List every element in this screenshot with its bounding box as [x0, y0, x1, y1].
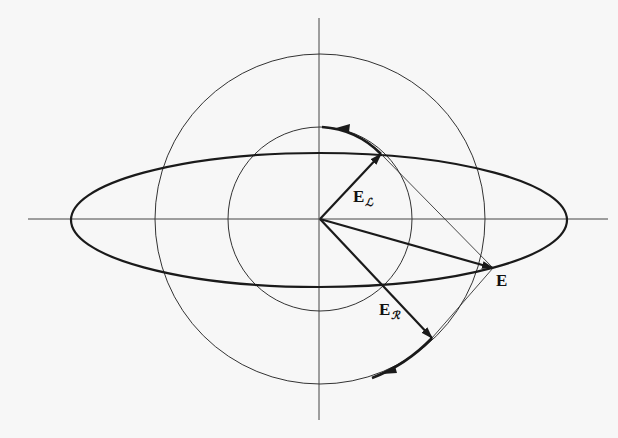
right-rotation-arrow-icon — [382, 366, 397, 374]
label-e-left-sub: ℒ — [365, 196, 373, 209]
label-e-total-main: E — [496, 271, 507, 290]
label-e-total: E — [496, 272, 507, 289]
label-e-right-main: E — [379, 300, 390, 319]
vector-e-left — [320, 154, 381, 219]
construction-line-left — [381, 154, 493, 268]
polarization-diagram — [0, 0, 618, 438]
vector-e-right — [320, 219, 432, 338]
left-rotation-arc — [322, 127, 381, 154]
label-e-right: Eℛ — [379, 301, 400, 318]
vector-e-total — [320, 219, 493, 268]
label-e-right-sub: ℛ — [391, 309, 400, 322]
label-e-left: Eℒ — [353, 188, 373, 205]
label-e-left-main: E — [353, 187, 364, 206]
